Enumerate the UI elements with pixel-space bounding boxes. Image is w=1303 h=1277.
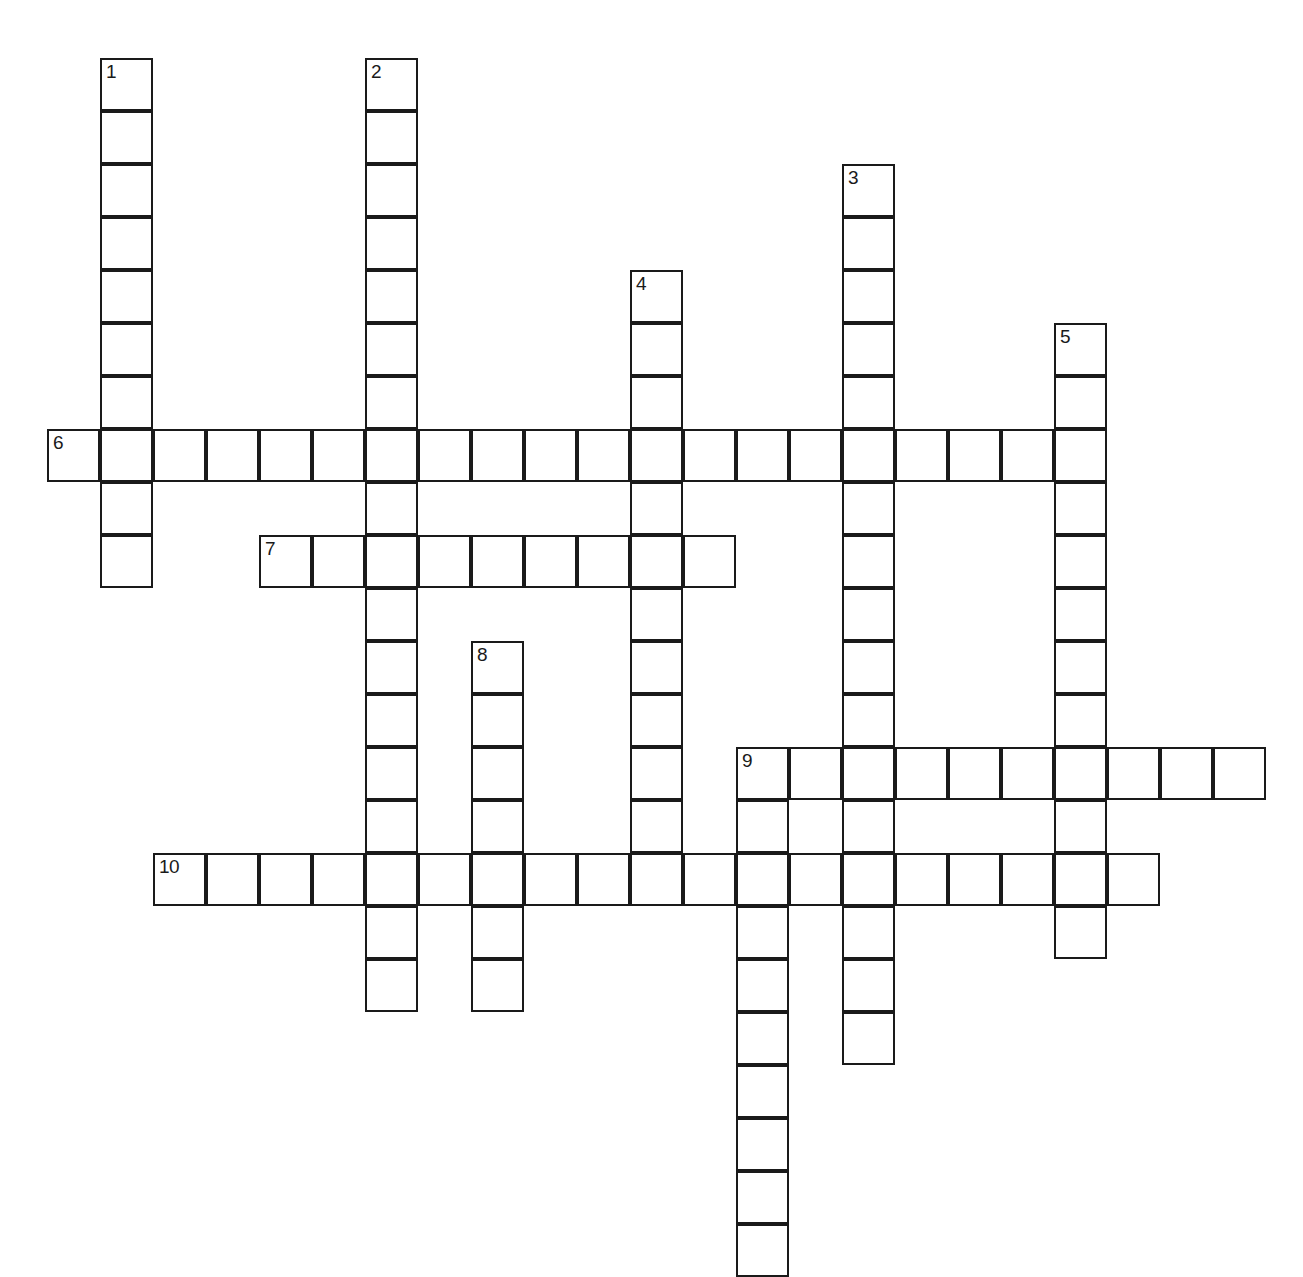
crossword-cell[interactable] <box>1107 853 1160 906</box>
crossword-cell[interactable] <box>842 588 895 641</box>
crossword-cell[interactable] <box>524 429 577 482</box>
crossword-cell-start-4[interactable]: 4 <box>630 270 683 323</box>
crossword-cell[interactable] <box>524 853 577 906</box>
crossword-cell[interactable] <box>365 535 418 588</box>
crossword-cell[interactable] <box>895 429 948 482</box>
crossword-cell-start-1[interactable]: 1 <box>100 58 153 111</box>
crossword-cell-start-10[interactable]: 10 <box>153 853 206 906</box>
crossword-cell[interactable] <box>630 588 683 641</box>
crossword-cell[interactable] <box>206 853 259 906</box>
crossword-cell[interactable] <box>842 959 895 1012</box>
crossword-cell[interactable] <box>842 694 895 747</box>
crossword-cell[interactable] <box>577 429 630 482</box>
crossword-cell[interactable] <box>471 694 524 747</box>
crossword-cell[interactable] <box>630 429 683 482</box>
crossword-cell[interactable] <box>365 800 418 853</box>
crossword-cell[interactable] <box>842 747 895 800</box>
crossword-cell[interactable] <box>842 906 895 959</box>
crossword-cell[interactable] <box>736 1171 789 1224</box>
crossword-cell[interactable] <box>471 535 524 588</box>
crossword-cell[interactable] <box>789 853 842 906</box>
crossword-cell[interactable] <box>418 853 471 906</box>
crossword-cell[interactable] <box>471 429 524 482</box>
crossword-cell[interactable] <box>736 1118 789 1171</box>
crossword-cell[interactable] <box>100 217 153 270</box>
crossword-cell[interactable] <box>842 270 895 323</box>
crossword-cell[interactable] <box>312 429 365 482</box>
crossword-cell[interactable] <box>153 429 206 482</box>
crossword-cell[interactable] <box>1001 747 1054 800</box>
crossword-cell[interactable] <box>365 217 418 270</box>
crossword-cell[interactable] <box>842 429 895 482</box>
crossword-cell-start-3[interactable]: 3 <box>842 164 895 217</box>
crossword-cell[interactable] <box>1054 429 1107 482</box>
crossword-cell[interactable] <box>736 1012 789 1065</box>
crossword-cell[interactable] <box>365 747 418 800</box>
crossword-cell[interactable] <box>1054 800 1107 853</box>
crossword-cell[interactable] <box>1054 694 1107 747</box>
crossword-cell[interactable] <box>312 535 365 588</box>
crossword-cell[interactable] <box>365 482 418 535</box>
crossword-cell[interactable] <box>471 747 524 800</box>
crossword-cell[interactable] <box>842 217 895 270</box>
crossword-cell[interactable] <box>895 747 948 800</box>
crossword-cell-start-8[interactable]: 8 <box>471 641 524 694</box>
crossword-cell[interactable] <box>1054 641 1107 694</box>
crossword-cell[interactable] <box>100 323 153 376</box>
crossword-cell[interactable] <box>842 376 895 429</box>
crossword-cell[interactable] <box>630 853 683 906</box>
crossword-cell[interactable] <box>100 535 153 588</box>
crossword-cell[interactable] <box>842 641 895 694</box>
crossword-cell[interactable] <box>471 800 524 853</box>
crossword-cell[interactable] <box>683 535 736 588</box>
crossword-cell[interactable] <box>630 535 683 588</box>
crossword-cell[interactable] <box>100 376 153 429</box>
crossword-cell[interactable] <box>365 959 418 1012</box>
crossword-cell[interactable] <box>842 853 895 906</box>
crossword-cell[interactable] <box>789 429 842 482</box>
crossword-cell[interactable] <box>365 588 418 641</box>
crossword-cell[interactable] <box>630 694 683 747</box>
crossword-cell-start-5[interactable]: 5 <box>1054 323 1107 376</box>
crossword-cell[interactable] <box>630 800 683 853</box>
crossword-cell[interactable] <box>1054 588 1107 641</box>
crossword-cell[interactable] <box>418 429 471 482</box>
crossword-cell[interactable] <box>789 747 842 800</box>
crossword-cell[interactable] <box>630 323 683 376</box>
crossword-cell[interactable] <box>630 641 683 694</box>
crossword-cell-start-7[interactable]: 7 <box>259 535 312 588</box>
crossword-cell[interactable] <box>100 164 153 217</box>
crossword-cell[interactable] <box>100 429 153 482</box>
crossword-cell[interactable] <box>1054 376 1107 429</box>
crossword-cell[interactable] <box>418 535 471 588</box>
crossword-cell-start-2[interactable]: 2 <box>365 58 418 111</box>
crossword-cell[interactable] <box>842 535 895 588</box>
crossword-cell[interactable] <box>365 376 418 429</box>
crossword-cell[interactable] <box>1213 747 1266 800</box>
crossword-cell[interactable] <box>630 747 683 800</box>
crossword-cell[interactable] <box>630 376 683 429</box>
crossword-cell[interactable] <box>1054 482 1107 535</box>
crossword-cell[interactable] <box>259 429 312 482</box>
crossword-cell[interactable] <box>577 853 630 906</box>
crossword-cell[interactable] <box>206 429 259 482</box>
crossword-cell[interactable] <box>365 164 418 217</box>
crossword-cell[interactable] <box>100 482 153 535</box>
crossword-cell[interactable] <box>365 429 418 482</box>
crossword-cell[interactable] <box>736 429 789 482</box>
crossword-cell[interactable] <box>683 429 736 482</box>
crossword-cell[interactable] <box>1054 906 1107 959</box>
crossword-cell[interactable] <box>471 959 524 1012</box>
crossword-cell[interactable] <box>842 482 895 535</box>
crossword-cell[interactable] <box>842 1012 895 1065</box>
crossword-cell-start-9[interactable]: 9 <box>736 747 789 800</box>
crossword-cell[interactable] <box>948 747 1001 800</box>
crossword-cell[interactable] <box>365 694 418 747</box>
crossword-cell[interactable] <box>736 1065 789 1118</box>
crossword-cell[interactable] <box>471 906 524 959</box>
crossword-cell[interactable] <box>1054 853 1107 906</box>
crossword-cell[interactable] <box>736 853 789 906</box>
crossword-cell[interactable] <box>842 800 895 853</box>
crossword-cell[interactable] <box>736 800 789 853</box>
crossword-cell[interactable] <box>524 535 577 588</box>
